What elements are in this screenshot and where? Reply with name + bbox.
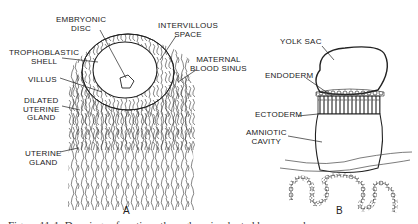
label-endoderm: ENDODERM [265,72,313,81]
label-intervillous-space: INTERVILLOUS SPACE [158,22,218,39]
panel-b-letter: B [336,205,343,216]
label-trophoblastic-shell: TROPHOBLASTIC SHELL [9,49,79,66]
panel-a-drawing [60,30,196,210]
figure: EMBRYONIC DISC INTERVILLOUS SPACE TROPHO… [0,0,418,224]
figure-caption: Figure 11-1. Drawings of sections throug… [8,219,323,224]
label-embryonic-disc: EMBRYONIC DISC [56,16,106,33]
label-uterine-gland: UTERINE GLAND [25,150,62,167]
panel-a-letter: A [123,205,130,216]
label-dilated-uterine-gland: DILATED UTERINE GLAND [23,97,60,123]
label-maternal-blood-sinus: MATERNAL BLOOD SINUS [190,56,247,73]
label-villus: VILLUS [28,76,57,85]
label-yolk-sac: YOLK SAC [280,38,322,47]
label-ectoderm: ECTODERM [255,111,302,120]
label-amniotic-cavity: AMNIOTIC CAVITY [246,129,287,146]
